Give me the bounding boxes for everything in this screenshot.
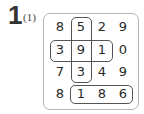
grid-cell: 8: [50, 84, 70, 104]
grid-cell: 5: [71, 17, 91, 37]
sub-problem-label: (1): [23, 11, 36, 23]
grid-cell: 8: [92, 84, 112, 104]
grid-cell: 1: [92, 40, 112, 60]
grid-cell: 6: [113, 84, 133, 104]
grid-cell: 9: [113, 17, 133, 37]
grid-cell: 7: [50, 62, 70, 82]
grid-cell: 3: [50, 40, 70, 60]
grid-cell: 3: [71, 62, 91, 82]
problem-number: 1: [8, 2, 22, 28]
grid-cell: 4: [92, 62, 112, 82]
grid-cell: 2: [92, 17, 112, 37]
grid-cell: 9: [113, 62, 133, 82]
grid-cell: 8: [50, 17, 70, 37]
grid-cell: 9: [71, 40, 91, 60]
grid-cell: 0: [113, 40, 133, 60]
grid-cell: 1: [71, 84, 91, 104]
